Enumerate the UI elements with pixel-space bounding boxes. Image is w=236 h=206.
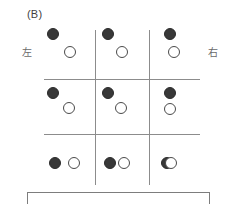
- grid-line-vertical-2: [149, 30, 150, 185]
- cell-r3c2-filled-circle: [104, 157, 116, 169]
- bottom-bracket: [27, 192, 210, 204]
- cell-r3c3-open-circle: [165, 157, 177, 169]
- cell-r2c3-filled-circle: [164, 87, 176, 99]
- cell-r2c1-open-circle: [63, 102, 75, 114]
- cell-r1c1-open-circle: [64, 46, 76, 58]
- cell-r1c3-open-circle: [168, 46, 180, 58]
- cell-r1c2-open-circle: [116, 46, 128, 58]
- grid-line-vertical-1: [95, 30, 96, 185]
- cell-r2c2-filled-circle: [102, 87, 114, 99]
- figure-panel-b: (B) 左 右: [0, 0, 236, 206]
- cell-r2c1-filled-circle: [47, 87, 59, 99]
- cell-r3c2-open-circle: [118, 157, 130, 169]
- cell-r1c2-filled-circle: [102, 28, 114, 40]
- cell-r1c1-filled-circle: [47, 28, 59, 40]
- grid-line-horizontal-2: [44, 134, 200, 135]
- cell-r1c3-filled-circle: [164, 28, 176, 40]
- cell-r3c1-filled-circle: [49, 157, 61, 169]
- cell-r2c3-open-circle: [164, 103, 176, 115]
- cell-r2c2-open-circle: [115, 102, 127, 114]
- axis-label-left: 左: [22, 44, 32, 59]
- cell-r3c1-open-circle: [68, 157, 80, 169]
- panel-label: (B): [27, 8, 42, 20]
- grid-line-horizontal-1: [44, 79, 200, 80]
- axis-label-right: 右: [208, 44, 218, 59]
